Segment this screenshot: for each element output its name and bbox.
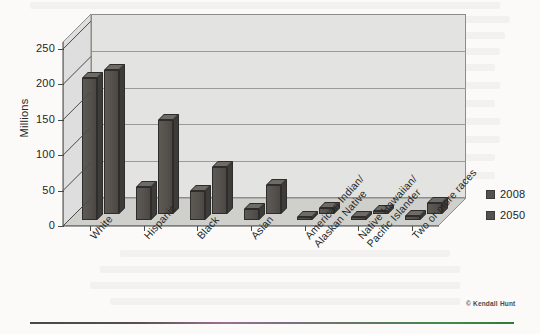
x-axis-category-label: White bbox=[88, 213, 115, 241]
legend-swatch-2008 bbox=[486, 190, 495, 199]
legend-label: 2008 bbox=[500, 188, 525, 200]
legend-item-2050: 2050 bbox=[486, 209, 525, 221]
legend-swatch-2050 bbox=[486, 211, 495, 220]
legend-item-2008: 2008 bbox=[486, 188, 525, 200]
x-axis-category-label: Black bbox=[195, 214, 221, 242]
x-axis-category-label: Hispanic bbox=[142, 203, 179, 242]
copyright-credit: © Kendall Hunt bbox=[466, 300, 515, 307]
x-axis-labels: WhiteHispanicBlackAsianAmerican Indian/A… bbox=[0, 0, 540, 334]
x-axis-category-line: Asian bbox=[249, 214, 276, 242]
population-projection-chart: Millions 050100150200250 WhiteHispanicBl… bbox=[0, 0, 540, 334]
x-axis-category-line: White bbox=[88, 213, 115, 241]
x-axis-category-line: Two or more races bbox=[410, 167, 479, 242]
x-axis-category-label: Two or more races bbox=[410, 167, 479, 242]
x-axis-category-label: Asian bbox=[249, 214, 276, 242]
x-axis-category-line: Black bbox=[195, 214, 221, 242]
page-divider-rule bbox=[30, 322, 514, 324]
x-axis-category-line: Hispanic bbox=[142, 203, 179, 242]
legend: 20082050 bbox=[486, 188, 525, 230]
legend-label: 2050 bbox=[500, 209, 525, 221]
